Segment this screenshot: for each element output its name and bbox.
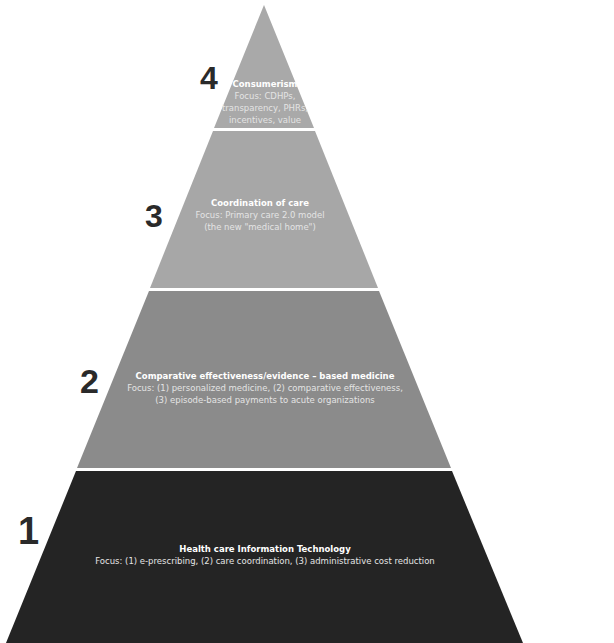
tier-3-focus-line-2: (the new "medical home")	[170, 221, 350, 233]
tier-1-focus: Focus: (1) e-prescribing, (2) care coord…	[80, 555, 450, 567]
tier-2-title: Comparative effectiveness/evidence – bas…	[100, 370, 430, 382]
tier-3-label: Coordination of care Focus: Primary care…	[170, 197, 350, 233]
tier-1-title: Health care Information Technology	[80, 543, 450, 555]
tier-4-label: Consumerism Focus: CDHPs, transparency, …	[210, 78, 320, 126]
tier-3-focus-line-1: Focus: Primary care 2.0 model	[170, 209, 350, 221]
tier-2-number: 2	[80, 364, 99, 398]
tier-4-focus-line-1: Focus: CDHPs,	[215, 90, 315, 102]
tier-2-focus-line-2: (3) episode-based payments to acute orga…	[100, 394, 430, 406]
tier-1-number: 1	[18, 512, 39, 550]
tier-2-label: Comparative effectiveness/evidence – bas…	[100, 370, 430, 406]
tier-4-focus-line-2: transparency, PHRs,	[215, 102, 315, 114]
tier-2-focus-line-1: Focus: (1) personalized medicine, (2) co…	[100, 382, 430, 394]
tier-3-title: Coordination of care	[170, 197, 350, 209]
tier-3-number: 3	[145, 200, 163, 232]
tier-4-title: Consumerism	[210, 78, 320, 90]
tier-4-focus-line-3: incentives, value	[215, 114, 315, 126]
tier-1-label: Health care Information Technology Focus…	[80, 543, 450, 567]
